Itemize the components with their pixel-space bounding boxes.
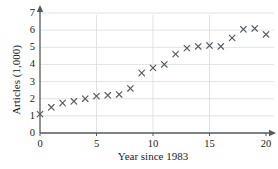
y-axis-label: Articles (1,000) [10, 28, 22, 132]
data-point-marker [241, 26, 247, 32]
axis-lines [37, 5, 276, 136]
x-axis-arrow [269, 130, 276, 136]
data-point-marker [71, 98, 77, 104]
data-point-marker [128, 86, 134, 92]
gridlines [40, 13, 274, 133]
x-axis-label: Year since 1983 [40, 150, 266, 162]
y-tick-label: 0 [21, 128, 35, 138]
y-tick-label: 2 [21, 94, 35, 104]
data-point-marker [116, 92, 122, 98]
y-axis-arrow [37, 5, 43, 12]
x-tick-label: 5 [87, 139, 107, 149]
data-point-marker [195, 44, 201, 50]
data-point-marker [218, 44, 224, 50]
data-point-marker [229, 35, 235, 41]
y-tick-label: 4 [21, 59, 35, 69]
data-point-marker [184, 45, 190, 51]
plot-area: 01234567 05101520 Articles (1,000) Year … [0, 0, 278, 169]
data-point-marker [263, 32, 269, 38]
x-tick-label: 10 [143, 139, 163, 149]
x-tick-label: 15 [200, 139, 220, 149]
data-point-marker [60, 100, 66, 106]
y-tick-label: 7 [21, 8, 35, 18]
data-point-marker [49, 104, 55, 110]
x-tick-label: 0 [30, 139, 50, 149]
y-tick-label: 5 [21, 42, 35, 52]
data-point-marker [173, 51, 179, 57]
data-point-marker [139, 70, 145, 76]
y-tick-label: 6 [21, 25, 35, 35]
data-point-marker [105, 92, 111, 98]
scatter-plot-figure: 01234567 05101520 Articles (1,000) Year … [0, 0, 278, 169]
y-tick-label: 1 [21, 111, 35, 121]
x-tick-label: 20 [256, 139, 276, 149]
y-tick-label: 3 [21, 77, 35, 87]
